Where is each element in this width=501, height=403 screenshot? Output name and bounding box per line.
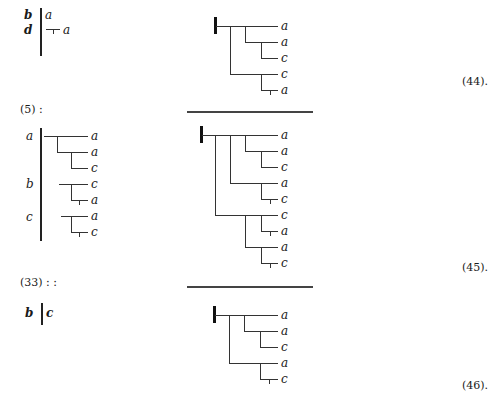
tree-leaf: a [281, 225, 288, 237]
tree-leaf: c [281, 52, 288, 64]
left-entry: c [91, 178, 98, 190]
tree-leaf: a [281, 309, 288, 321]
left-label-d: d [24, 24, 32, 36]
left-entry: c [46, 307, 53, 319]
left-entry: a [91, 146, 98, 158]
equation-number: (44). [462, 76, 488, 88]
left-entry: a [63, 24, 70, 36]
left-entry: a [91, 130, 98, 142]
tree-leaf: c [281, 257, 288, 269]
tree-leaf: c [281, 161, 288, 173]
left-label-b: b [25, 307, 33, 319]
tree-leaf: a [281, 357, 288, 369]
left-entry: a [91, 210, 98, 222]
tree-leaf: c [281, 341, 288, 353]
tree-leaf: c [281, 68, 288, 80]
left-divider [40, 8, 42, 56]
tree-leaf: a [281, 145, 288, 157]
rule-label: (5) : [20, 104, 43, 116]
inference-rule [187, 111, 313, 113]
inference-rule [187, 286, 313, 288]
tree-leaf: a [281, 84, 288, 96]
tree-leaf: a [281, 36, 288, 48]
equation-number: (45). [462, 262, 488, 274]
left-label-b: b [24, 9, 32, 21]
tree-leaf: a [281, 241, 288, 253]
equation-number: (46). [462, 380, 488, 392]
stub-tick [53, 29, 54, 34]
left-label-c: c [26, 211, 33, 223]
tree-leaf: c [281, 209, 288, 221]
rule-label: (33) : : [20, 277, 57, 289]
left-divider [41, 303, 43, 325]
left-entry: c [91, 226, 98, 238]
tree-leaf: a [281, 129, 288, 141]
left-entry: c [91, 162, 98, 174]
left-label-a: a [26, 130, 33, 142]
tree-leaf: c [281, 193, 288, 205]
tree-leaf: c [281, 373, 288, 385]
left-entry: a [91, 194, 98, 206]
left-entry: a [45, 9, 52, 21]
left-label-b: b [26, 178, 34, 190]
left-divider [40, 128, 42, 241]
tree-leaf: a [281, 20, 288, 32]
tree-leaf: a [281, 177, 288, 189]
tree-leaf: a [281, 325, 288, 337]
